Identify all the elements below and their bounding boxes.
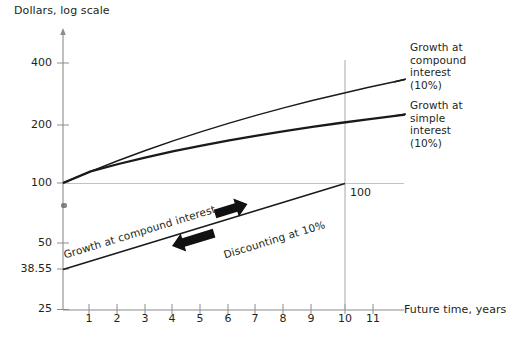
stray-mark-artifact [61,203,67,208]
series-label-growth-simple-interest: Growth at simple interest (10%) [410,99,463,149]
series-label-growth-compound-interest: Growth at compound interest (10%) [410,41,466,91]
annotation-reference-value-at-year-10: 100 [350,186,371,199]
series-line-growth-compound-interest [63,80,405,183]
series-line-growth-simple-interest [63,115,405,183]
backward-arrow-icon [169,224,217,255]
y-axis [60,28,66,310]
x-axis-ticks [89,304,373,314]
